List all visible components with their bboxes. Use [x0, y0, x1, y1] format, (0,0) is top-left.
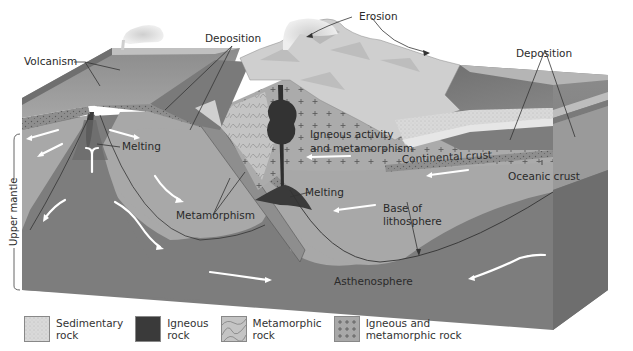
- igneous-activity-label-1: Igneous activity: [310, 128, 393, 140]
- igneous-activity-label-2: and metamorphism: [310, 142, 413, 154]
- tectonic-block-diagram: Upper mantle Volcanism Deposition Erosio…: [0, 0, 633, 351]
- legend: Sedimentary rock Igneous rock Metamorphi…: [24, 314, 474, 344]
- legend-item-igneous-metamorphic: Igneous and metamorphic rock: [334, 316, 462, 342]
- sedimentary-rock-swatch: [24, 316, 50, 342]
- deposition-left-label: Deposition: [205, 32, 261, 44]
- asthenosphere-label: Asthenosphere: [334, 275, 413, 287]
- legend-label: Igneous rock: [167, 317, 208, 341]
- legend-label: Sedimentary rock: [56, 317, 123, 341]
- igneous-pluton: [267, 99, 297, 144]
- legend-item-metamorphic: Metamorphic rock: [221, 316, 322, 342]
- melting-center-label: Melting: [305, 186, 344, 198]
- legend-item-igneous: Igneous rock: [135, 316, 208, 342]
- metamorphic-rock-swatch: [221, 316, 247, 342]
- legend-label: Metamorphic rock: [253, 317, 322, 341]
- metamorphism-label: Metamorphism: [176, 209, 255, 221]
- erosion-label: Erosion: [359, 10, 398, 22]
- legend-item-sedimentary: Sedimentary rock: [24, 316, 123, 342]
- oceanic-crust-label: Oceanic crust: [508, 170, 580, 182]
- deposition-right-label: Deposition: [516, 47, 572, 59]
- volcanism-label: Volcanism: [24, 55, 77, 67]
- igneous-rock-swatch: [135, 316, 161, 342]
- legend-label: Igneous and metamorphic rock: [366, 317, 462, 341]
- upper-mantle-label: Upper mantle: [8, 177, 19, 246]
- base-of-lithosphere-label-2: lithosphere: [383, 215, 442, 227]
- base-of-lithosphere-label-1: Base of: [383, 202, 422, 214]
- igneous-metamorphic-rock-swatch: [334, 316, 360, 342]
- volcano-smoke-left: [122, 25, 164, 44]
- melting-left-label: Melting: [122, 140, 161, 152]
